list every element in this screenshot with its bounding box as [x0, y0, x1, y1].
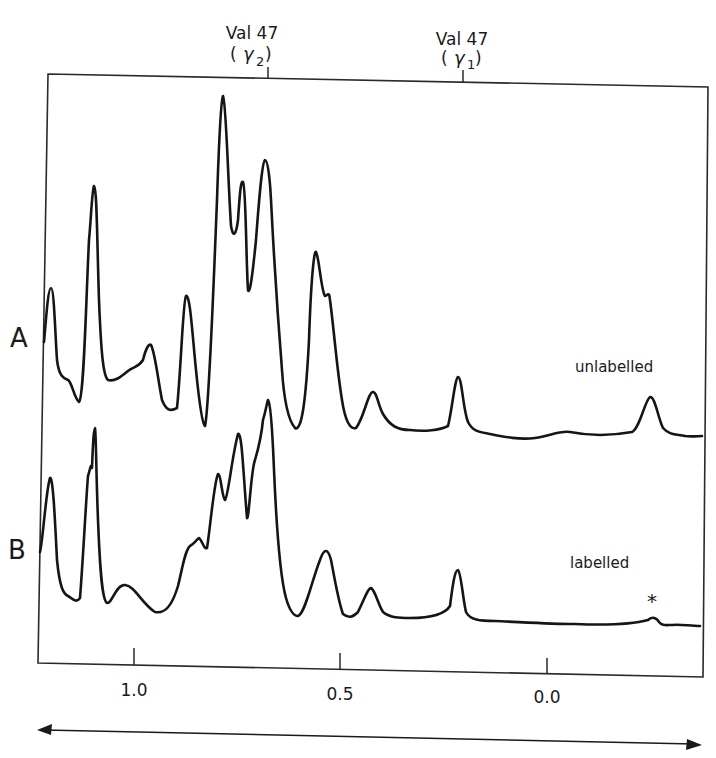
svg-text:(: ( [441, 48, 448, 68]
labelled-annotation: labelled [570, 554, 629, 572]
svg-text:(: ( [230, 44, 237, 64]
svg-text:γ: γ [454, 47, 466, 68]
svg-text:): ) [475, 48, 482, 68]
svg-text:): ) [265, 44, 272, 64]
x-tick-label-1-0: 1.0 [120, 680, 147, 700]
trace-b-label: B [8, 535, 26, 565]
trace-a-label: A [10, 323, 28, 353]
val47-gamma1-label: Val 47 [436, 29, 489, 49]
trace-a-spectrum [44, 96, 702, 439]
unlabelled-annotation: unlabelled [575, 358, 653, 376]
svg-text:γ: γ [243, 43, 255, 64]
svg-text:2: 2 [256, 54, 264, 69]
nmr-spectrum-figure: Val 47 ( γ 2 ) Val 47 ( γ 1 ) A B unlabe… [0, 0, 716, 758]
val47-gamma1-sublabel: ( γ 1 ) [441, 47, 482, 72]
double-arrow [37, 724, 702, 750]
x-tick-label-0-0: 0.0 [533, 687, 560, 707]
x-tick-label-0-5: 0.5 [326, 684, 353, 704]
val47-gamma2-sublabel: ( γ 2 ) [230, 43, 272, 69]
val47-gamma2-label: Val 47 [226, 23, 279, 43]
asterisk-marker: * [647, 589, 657, 613]
